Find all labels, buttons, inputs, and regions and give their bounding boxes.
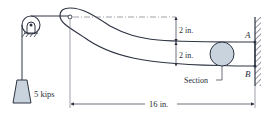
dim-bottom-label: 2 in. (179, 51, 193, 60)
point-b-marker (254, 65, 257, 68)
point-a-marker (254, 41, 257, 44)
pin (68, 15, 72, 19)
cross-section (210, 42, 234, 66)
length-dimension: 16 in. (71, 98, 254, 109)
load-label: 5 kips (34, 89, 55, 99)
section-leader (216, 66, 222, 80)
point-b-label: B (245, 69, 251, 79)
pulley-axle (30, 24, 33, 27)
section-label: Section (184, 76, 208, 85)
dim-top-label: 2 in. (179, 26, 193, 35)
point-a-label: A (244, 30, 251, 40)
weight-block (13, 80, 31, 103)
beam-diagram: 5 kips 2 in. 2 in. Section A B 16 in. (0, 0, 272, 115)
dim-length-label: 16 in. (149, 99, 168, 109)
fixed-wall (255, 17, 261, 86)
